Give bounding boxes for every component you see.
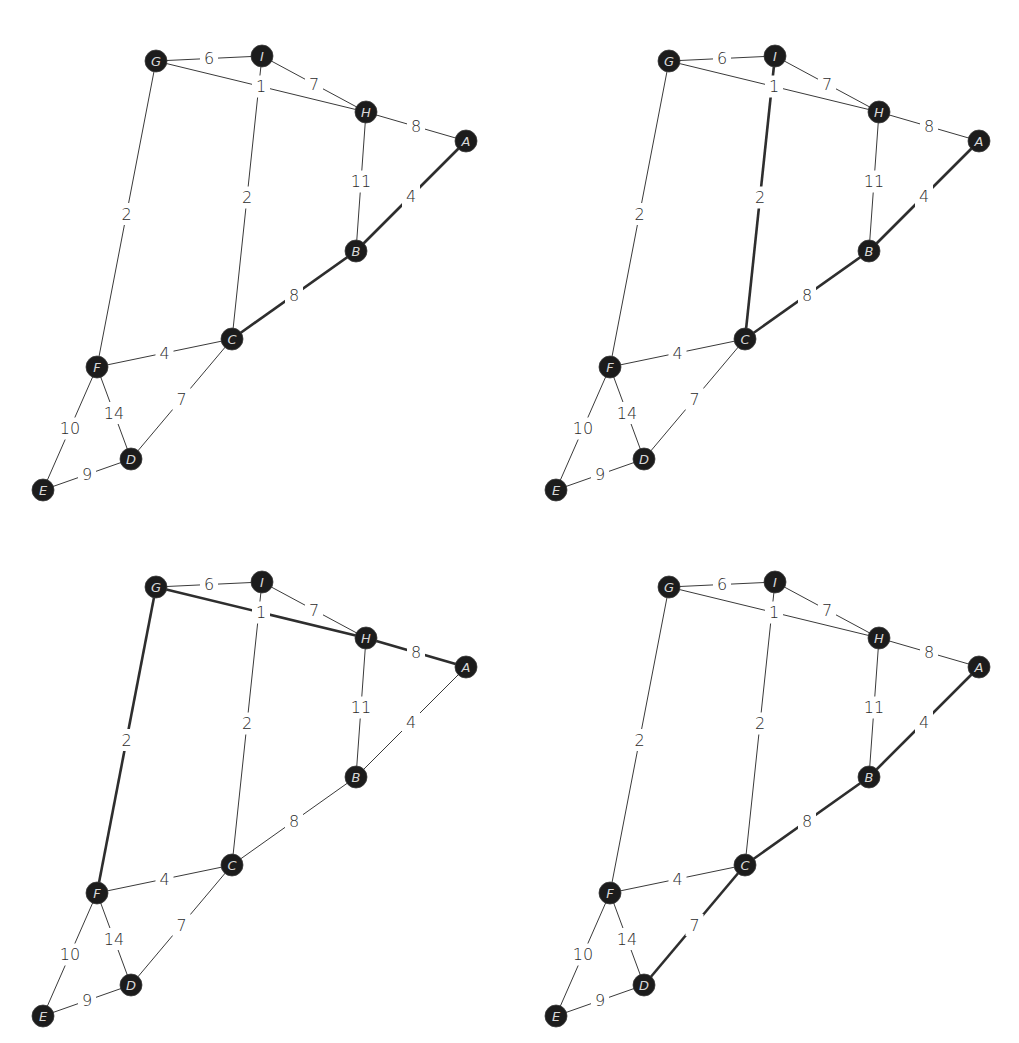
node-label: E: [39, 1009, 48, 1024]
edge-weight-label: 14: [104, 930, 124, 949]
node-I: I: [764, 571, 786, 593]
node-label: B: [352, 770, 361, 785]
node-C: C: [734, 328, 756, 350]
node-D: D: [120, 448, 142, 470]
node-G: G: [145, 50, 167, 72]
edge-weight-label: 7: [176, 916, 186, 935]
node-label: D: [126, 452, 136, 467]
edge-weight-label: 9: [595, 465, 605, 484]
edge-weight-label: 4: [672, 344, 682, 363]
edge-weight-label: 1: [769, 77, 779, 96]
node-H: H: [868, 101, 890, 123]
edge-weight-label: 9: [595, 991, 605, 1010]
edge-weight-label: 2: [121, 205, 131, 224]
nodes-layer: GIHABCFDE: [545, 571, 990, 1027]
node-label: I: [260, 49, 264, 64]
node-label: B: [352, 244, 361, 259]
graph-canvas: 61781142284101479GIHABCFDE: [0, 0, 510, 521]
node-A: A: [455, 130, 477, 152]
node-D: D: [633, 974, 655, 996]
edge-weight-label: 7: [176, 390, 186, 409]
node-F: F: [86, 882, 108, 904]
node-D: D: [120, 974, 142, 996]
node-F: F: [599, 882, 621, 904]
node-I: I: [764, 45, 786, 67]
edge-weight-label: 10: [573, 419, 593, 438]
edges-layer: [556, 582, 979, 1016]
edge-weight-label: 10: [60, 945, 80, 964]
edge-weight-label: 9: [82, 465, 92, 484]
node-B: B: [345, 240, 367, 262]
edge-weight-label: 8: [411, 117, 421, 136]
edge-weight-label: 14: [617, 404, 637, 423]
node-F: F: [599, 356, 621, 378]
edge-weight-label: 8: [802, 286, 812, 305]
node-label: A: [974, 134, 984, 149]
node-label: C: [740, 332, 750, 347]
node-label: D: [639, 452, 649, 467]
node-B: B: [858, 240, 880, 262]
edge-weight-label: 2: [121, 731, 131, 750]
edge-weight-label: 2: [634, 731, 644, 750]
edge-weight-label: 2: [755, 714, 765, 733]
edge-weight-label: 7: [689, 916, 699, 935]
node-H: H: [868, 627, 890, 649]
node-label: D: [639, 978, 649, 993]
edge-weight-label: 11: [864, 172, 884, 191]
node-E: E: [32, 479, 54, 501]
node-label: E: [552, 1009, 561, 1024]
edge-weight-label: 4: [919, 187, 929, 206]
edge-weight-label: 2: [634, 205, 644, 224]
node-label: I: [773, 575, 777, 590]
node-label: A: [461, 660, 471, 675]
node-F: F: [86, 356, 108, 378]
nodes-layer: GIHABCFDE: [545, 45, 990, 501]
edge-weight-label: 7: [689, 390, 699, 409]
nodes-layer: GIHABCFDE: [32, 45, 477, 501]
edge-weight-label: 8: [924, 643, 934, 662]
edges-layer: [556, 56, 979, 490]
node-label: H: [361, 105, 371, 120]
edge-weight-label: 4: [159, 870, 169, 889]
node-I: I: [251, 571, 273, 593]
panel-bottom-right: 61781142284101479GIHABCFDE: [513, 526, 1019, 1043]
edges-layer: [43, 56, 466, 490]
node-B: B: [345, 766, 367, 788]
edge-weight-label: 4: [919, 713, 929, 732]
edge-weight-label: 1: [769, 603, 779, 622]
node-label: H: [874, 631, 884, 646]
edges-layer: [43, 582, 466, 1016]
node-label: F: [93, 360, 101, 375]
node-label: A: [974, 660, 984, 675]
edge-weight-label: 8: [802, 812, 812, 831]
edge-weight-label: 7: [822, 75, 832, 94]
graph-canvas: 61781142284101479GIHABCFDE: [0, 526, 510, 1043]
panel-bottom-left: 61781142284101479GIHABCFDE: [0, 526, 510, 1043]
node-label: B: [865, 244, 874, 259]
edge-weight-label: 4: [406, 713, 416, 732]
node-label: B: [865, 770, 874, 785]
node-A: A: [968, 656, 990, 678]
edge-weight-label: 1: [256, 603, 266, 622]
edge-weight-label: 6: [717, 49, 727, 68]
edge-weight-label: 2: [242, 188, 252, 207]
node-label: I: [773, 49, 777, 64]
edge-weight-label: 8: [411, 643, 421, 662]
edge-weight-label: 6: [717, 575, 727, 594]
node-label: F: [606, 360, 614, 375]
edge-weight-label: 6: [204, 575, 214, 594]
edge-weight-label: 1: [256, 77, 266, 96]
edge-weight-label: 8: [289, 286, 299, 305]
panel-top-left: 61781142284101479GIHABCFDE: [0, 0, 510, 521]
node-label: F: [606, 886, 614, 901]
node-label: H: [874, 105, 884, 120]
edge-weight-label: 7: [309, 75, 319, 94]
node-E: E: [545, 479, 567, 501]
edge-weight-label: 2: [755, 188, 765, 207]
edge-weight-label: 4: [672, 870, 682, 889]
edge-weight-label: 7: [309, 601, 319, 620]
node-label: C: [740, 858, 750, 873]
node-C: C: [221, 854, 243, 876]
node-C: C: [734, 854, 756, 876]
node-label: E: [552, 483, 561, 498]
